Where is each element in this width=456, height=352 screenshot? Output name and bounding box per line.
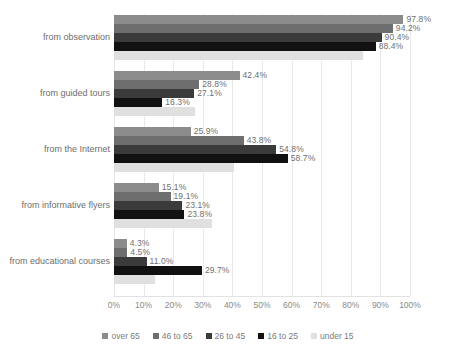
legend-swatch-icon <box>102 333 108 339</box>
legend-label: over 65 <box>111 331 139 341</box>
bar-value-label: 11.0% <box>150 256 174 266</box>
x-tick-label: 100% <box>399 300 421 310</box>
bar-row: 29.7% <box>114 266 410 275</box>
bar-over-65 <box>114 239 127 248</box>
x-tick-label: 40% <box>224 300 241 310</box>
bar-value-label: 27.1% <box>197 88 222 98</box>
bar-26-to-45 <box>114 33 382 42</box>
bar-row <box>114 107 410 116</box>
x-tick-label: 30% <box>194 300 211 310</box>
legend-swatch-icon <box>311 333 317 339</box>
bar-under-15 <box>114 275 155 284</box>
x-tick-label: 50% <box>253 300 270 310</box>
bar-value-label: 43.8% <box>247 135 272 145</box>
bar-row <box>114 163 410 172</box>
bar-value-label: 88.4% <box>379 41 404 51</box>
category-group: 15.1%19.1%23.1%23.8% <box>114 183 410 228</box>
x-tick-label: 60% <box>283 300 300 310</box>
bar-chart: 97.8%94.2%90.4%88.4%42.4%28.8%27.1%16.3%… <box>0 0 456 352</box>
bar-46-to-65 <box>114 80 199 89</box>
bar-row: 88.4% <box>114 42 410 51</box>
bar-under-15 <box>114 107 195 116</box>
bar-over-65 <box>114 15 403 24</box>
legend-label: 16 to 25 <box>267 331 298 341</box>
bar-row: 97.8% <box>114 15 410 24</box>
x-tick-label: 90% <box>372 300 389 310</box>
bar-under-15 <box>114 163 234 172</box>
bar-row <box>114 275 410 284</box>
category-group: 4.3%4.5%11.0%29.7% <box>114 239 410 284</box>
bar-row <box>114 219 410 228</box>
x-tick-label: 10% <box>135 300 152 310</box>
x-axis: 0%10%20%30%40%50%60%70%80%90%100% <box>114 296 410 314</box>
bar-value-label: 29.7% <box>205 265 230 275</box>
legend-label: 26 to 45 <box>215 331 246 341</box>
bar-under-15 <box>114 219 212 228</box>
bar-row: 27.1% <box>114 89 410 98</box>
bar-46-to-65 <box>114 248 127 257</box>
legend-label: under 15 <box>320 331 354 341</box>
bar-16-to-25 <box>114 154 288 163</box>
category-label: from the Internet <box>0 144 110 154</box>
bar-under-15 <box>114 51 363 60</box>
bar-row: 15.1% <box>114 183 410 192</box>
bar-26-to-45 <box>114 257 147 266</box>
bar-value-label: 23.8% <box>187 209 212 219</box>
bar-value-label: 16.3% <box>165 97 190 107</box>
bar-row: 23.8% <box>114 210 410 219</box>
legend-item-16-to-25[interactable]: 16 to 25 <box>258 331 298 341</box>
bar-26-to-45 <box>114 145 276 154</box>
legend-item-under-15[interactable]: under 15 <box>311 331 354 341</box>
category-group: 97.8%94.2%90.4%88.4% <box>114 15 410 60</box>
bar-26-to-45 <box>114 201 182 210</box>
gridline <box>410 14 411 296</box>
bar-value-label: 58.7% <box>291 153 316 163</box>
bar-row: 42.4% <box>114 71 410 80</box>
bar-46-to-65 <box>114 24 393 33</box>
bar-value-label: 42.4% <box>243 70 268 80</box>
bar-46-to-65 <box>114 192 171 201</box>
bar-row: 4.3% <box>114 239 410 248</box>
bar-16-to-25 <box>114 210 184 219</box>
legend-item-over-65[interactable]: over 65 <box>102 331 139 341</box>
bar-row: 23.1% <box>114 201 410 210</box>
bar-row: 11.0% <box>114 257 410 266</box>
category-group: 25.9%43.8%54.8%58.7% <box>114 127 410 172</box>
bar-row: 19.1% <box>114 192 410 201</box>
bar-row: 43.8% <box>114 136 410 145</box>
bar-row: 58.7% <box>114 154 410 163</box>
bar-row: 90.4% <box>114 33 410 42</box>
category-label: from educational courses <box>0 256 110 266</box>
plot-area: 97.8%94.2%90.4%88.4%42.4%28.8%27.1%16.3%… <box>114 14 410 296</box>
legend-swatch-icon <box>206 333 212 339</box>
legend-swatch-icon <box>153 333 159 339</box>
bar-row: 28.8% <box>114 80 410 89</box>
bar-row <box>114 51 410 60</box>
category-group: 42.4%28.8%27.1%16.3% <box>114 71 410 116</box>
x-tick-label: 80% <box>342 300 359 310</box>
category-label: from guided tours <box>0 88 110 98</box>
bar-over-65 <box>114 127 191 136</box>
chart-legend: over 6546 to 6526 to 4516 to 25under 15 <box>0 331 456 341</box>
bar-16-to-25 <box>114 266 202 275</box>
bar-value-label: 4.5% <box>130 247 150 257</box>
x-tick-label: 0% <box>108 300 120 310</box>
x-tick-label: 20% <box>165 300 182 310</box>
bar-16-to-25 <box>114 98 162 107</box>
legend-label: 46 to 65 <box>162 331 193 341</box>
legend-swatch-icon <box>258 333 264 339</box>
bar-16-to-25 <box>114 42 376 51</box>
category-label: from informative flyers <box>0 200 110 210</box>
bar-value-label: 25.9% <box>194 126 219 136</box>
bar-over-65 <box>114 183 159 192</box>
bar-46-to-65 <box>114 136 244 145</box>
category-label: from observation <box>0 32 110 42</box>
bar-row: 54.8% <box>114 145 410 154</box>
bar-row: 94.2% <box>114 24 410 33</box>
legend-item-26-to-45[interactable]: 26 to 45 <box>206 331 246 341</box>
legend-item-46-to-65[interactable]: 46 to 65 <box>153 331 193 341</box>
x-tick-label: 70% <box>313 300 330 310</box>
bar-row: 16.3% <box>114 98 410 107</box>
